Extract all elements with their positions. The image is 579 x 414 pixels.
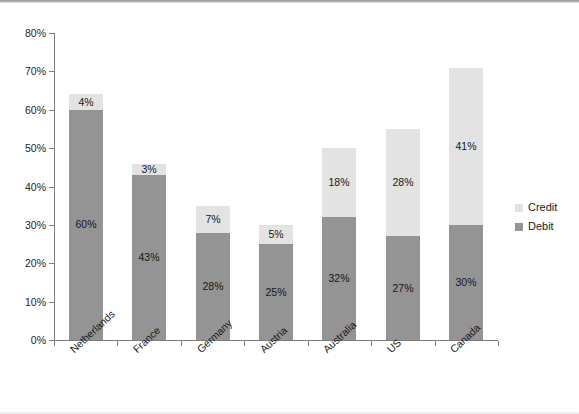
bar-group[interactable]: 60%4% <box>69 94 103 340</box>
y-axis-tick-label-text: 50% <box>2 143 46 154</box>
x-axis-tick <box>308 341 309 346</box>
y-axis-tick-label: 70% <box>0 66 46 77</box>
bar-group[interactable]: 32%18% <box>322 148 356 340</box>
y-axis-tick-label: 40% <box>0 182 46 193</box>
x-axis-tick <box>498 341 499 346</box>
bar-group[interactable]: 30%41% <box>449 68 483 340</box>
bar-value-label-credit: 28% <box>386 177 420 188</box>
legend-item[interactable]: Debit <box>515 217 577 236</box>
bar-group[interactable]: 27%28% <box>386 129 420 340</box>
y-axis-tick-label: 0% <box>0 335 46 346</box>
x-axis-tick <box>244 341 245 346</box>
bar-value-label-credit: 41% <box>449 141 483 152</box>
y-axis-tick-label-text: 80% <box>2 28 46 39</box>
bar-value-label-debit: 43% <box>132 252 166 263</box>
bar-value-label-credit: 18% <box>322 177 356 188</box>
bar-value-label-credit: 7% <box>196 214 230 225</box>
y-axis-tick <box>49 187 54 188</box>
bar-value-label-debit: 25% <box>259 287 293 298</box>
y-axis-tick-label-text: 60% <box>2 105 46 116</box>
y-axis-tick-label-text: 40% <box>2 182 46 193</box>
y-axis-tick-label: 10% <box>0 297 46 308</box>
bar-value-label-debit: 30% <box>449 277 483 288</box>
bar-value-label-debit: 28% <box>196 281 230 292</box>
y-axis-tick <box>49 71 54 72</box>
legend-item-label: Credit <box>528 202 557 213</box>
y-axis-line <box>54 33 55 341</box>
x-axis-tick <box>371 341 372 346</box>
y-axis-tick-label-text: 30% <box>2 220 46 231</box>
legend-swatch-icon <box>515 223 523 231</box>
y-axis-tick-label: 30% <box>0 220 46 231</box>
x-axis-tick <box>181 341 182 346</box>
bar-value-label-credit: 3% <box>132 164 166 175</box>
bar-group[interactable]: 25%5% <box>259 225 293 340</box>
y-axis-tick-label: 20% <box>0 258 46 269</box>
y-axis-tick <box>49 225 54 226</box>
x-axis-tick <box>54 341 55 346</box>
y-axis-tick <box>49 148 54 149</box>
stacked-bar-chart: 0%10%20%30%40%50%60%70%80% 60%4%43%3%28%… <box>0 0 579 414</box>
y-axis-tick-label-text: 10% <box>2 297 46 308</box>
bar-value-label-debit: 27% <box>386 283 420 294</box>
chart-legend: CreditDebit <box>515 198 577 236</box>
legend-swatch-icon <box>515 204 523 212</box>
chart-page: 0%10%20%30%40%50%60%70%80% 60%4%43%3%28%… <box>0 0 579 414</box>
bar-value-label-debit: 32% <box>322 273 356 284</box>
y-axis-tick <box>49 302 54 303</box>
y-axis-tick-label: 50% <box>0 143 46 154</box>
y-axis-tick <box>49 110 54 111</box>
x-axis-tick <box>117 341 118 346</box>
bar-value-label-credit: 4% <box>69 97 103 108</box>
legend-item[interactable]: Credit <box>515 198 577 217</box>
y-axis-tick-label: 80% <box>0 28 46 39</box>
y-axis-tick-label: 60% <box>0 105 46 116</box>
y-axis-tick <box>49 33 54 34</box>
y-axis-tick-label-text: 70% <box>2 66 46 77</box>
x-axis-tick <box>435 341 436 346</box>
bar-value-label-debit: 60% <box>69 219 103 230</box>
y-axis-tick-label-text: 20% <box>2 258 46 269</box>
legend-item-label: Debit <box>528 221 554 232</box>
bar-value-label-credit: 5% <box>259 229 293 240</box>
bar-group[interactable]: 43%3% <box>132 163 166 340</box>
y-axis-tick <box>49 263 54 264</box>
y-axis-tick-label-text: 0% <box>2 335 46 346</box>
